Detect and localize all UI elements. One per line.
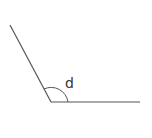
ray-left <box>10 25 51 102</box>
angle-label: d <box>65 75 74 91</box>
angle-diagram: d <box>0 0 152 138</box>
